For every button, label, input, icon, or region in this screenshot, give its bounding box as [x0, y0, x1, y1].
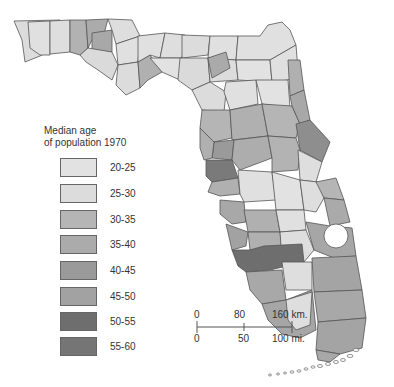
scale-mi-100: 100 mi. [272, 333, 305, 344]
legend-label: 25-30 [110, 188, 136, 199]
scale-mi-0: 0 [194, 333, 200, 344]
legend-item: 45-50 [60, 287, 180, 307]
legend-title-line1: Median age [44, 125, 126, 137]
legend-swatch [60, 337, 97, 356]
legend-item: 20-25 [60, 158, 180, 178]
legend-label: 40-45 [110, 265, 136, 276]
legend-swatch [60, 261, 97, 280]
legend-label: 35-40 [110, 239, 136, 250]
legend-item: 25-30 [60, 184, 180, 204]
legend-item: 35-40 [60, 235, 180, 255]
legend-label: 45-50 [110, 291, 136, 302]
legend-swatch [60, 184, 97, 203]
legend-title-line2: of population 1970 [44, 137, 126, 149]
scale-mi-50: 50 [238, 333, 249, 344]
scale-bar-line [190, 303, 330, 353]
legend-item: 30-35 [60, 210, 180, 230]
legend-swatch [60, 210, 97, 229]
legend-label: 30-35 [110, 214, 136, 225]
legend-item: 50-55 [60, 312, 180, 332]
legend-swatch [60, 158, 97, 177]
legend-item: 40-45 [60, 261, 180, 281]
legend-item: 55-60 [60, 337, 180, 357]
scale-bar: 0 80 160 km. 0 50 100 mi. [190, 303, 330, 353]
legend-label: 55-60 [110, 341, 136, 352]
legend-swatch [60, 235, 97, 254]
legend-swatch [60, 312, 97, 331]
legend-swatch [60, 287, 97, 306]
legend-label: 50-55 [110, 316, 136, 327]
legend-title: Median age of population 1970 [44, 125, 126, 149]
lake-okeechobee [324, 224, 348, 248]
legend-label: 20-25 [110, 162, 136, 173]
